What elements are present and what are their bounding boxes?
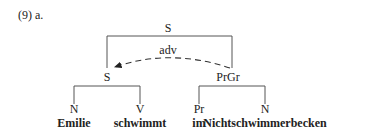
word-nichtschwimmerbecken: Nichtschwimmerbecken bbox=[203, 117, 326, 129]
word-emilie: Emilie bbox=[57, 117, 90, 129]
relation-label-adv: adv bbox=[159, 44, 176, 56]
category-n: N bbox=[70, 103, 79, 115]
root-node-s: S bbox=[165, 22, 172, 34]
category-pr: Pr bbox=[194, 103, 205, 115]
category-n2: N bbox=[261, 103, 270, 115]
node-prgr: PrGr bbox=[216, 71, 239, 83]
category-v: V bbox=[136, 103, 145, 115]
prgr-bracket bbox=[199, 86, 265, 104]
adv-dependency-arrow bbox=[115, 58, 230, 68]
word-schwimmt: schwimmt bbox=[114, 117, 167, 129]
tree-lines bbox=[0, 0, 370, 135]
s-bracket bbox=[74, 86, 140, 104]
node-s: S bbox=[104, 71, 111, 83]
